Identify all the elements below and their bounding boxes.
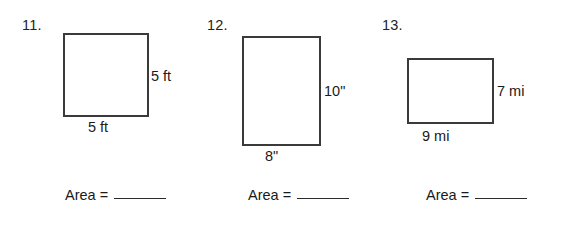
width-label: 9 mi <box>422 129 449 144</box>
area-answer-blank[interactable] <box>114 197 166 199</box>
width-label: 5 ft <box>88 120 108 135</box>
rectangle-figure <box>407 58 494 124</box>
area-worksheet: 11. 5 ft 5 ft Area = 12. 10" 8" Area = 1… <box>0 0 566 229</box>
area-label: Area = <box>65 188 108 203</box>
area-label: Area = <box>248 188 291 203</box>
area-answer-row: Area = <box>65 188 166 203</box>
height-label: 10" <box>324 84 345 99</box>
rectangle-figure <box>63 33 149 117</box>
area-answer-blank[interactable] <box>475 197 527 199</box>
height-label: 5 ft <box>151 69 171 84</box>
area-answer-row: Area = <box>426 188 527 203</box>
problem-number: 12. <box>207 18 228 33</box>
rectangle-figure <box>242 36 321 146</box>
width-label: 8" <box>265 149 278 164</box>
area-answer-blank[interactable] <box>297 197 349 199</box>
area-label: Area = <box>426 188 469 203</box>
problem-11: 11. 5 ft 5 ft Area = <box>0 0 190 229</box>
problem-12: 12. 10" 8" Area = <box>185 0 375 229</box>
area-answer-row: Area = <box>248 188 349 203</box>
problem-13: 13. 7 mi 9 mi Area = <box>360 0 566 229</box>
height-label: 7 mi <box>497 84 524 99</box>
problem-number: 11. <box>22 18 42 33</box>
problem-number: 13. <box>382 18 403 33</box>
